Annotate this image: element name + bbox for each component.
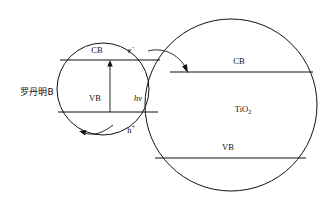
hole-transfer-arrow-head [79, 130, 86, 135]
photon-energy-label: hν [134, 93, 142, 103]
dye-conduction-band-label: CB [91, 45, 103, 55]
tio2-material-label: TiO2 [235, 104, 251, 115]
excitation-arrow-head [107, 60, 112, 66]
tio2-conduction-band-label: CB [233, 56, 245, 66]
photocatalysis-diagram: 罗丹明B CB VB e− h+ hν CB TiO2 VB [0, 0, 335, 213]
tio2-formula-subscript: 2 [248, 109, 251, 115]
dye-particle-circle [57, 43, 149, 135]
hole-label: h+ [127, 124, 135, 135]
hole-charge-sign: + [131, 124, 135, 130]
dye-valence-band-label: VB [89, 93, 101, 103]
electron-charge-sign: − [131, 44, 135, 50]
diagram-canvas: 罗丹明B CB VB e− h+ hν CB TiO2 VB [0, 0, 335, 213]
tio2-formula-main: TiO [235, 104, 248, 114]
tio2-valence-band-label: VB [222, 142, 234, 152]
tio2-particle-circle [145, 19, 317, 191]
electron-injection-arrow-shaft [148, 50, 186, 68]
dye-material-label: 罗丹明B [20, 87, 53, 97]
